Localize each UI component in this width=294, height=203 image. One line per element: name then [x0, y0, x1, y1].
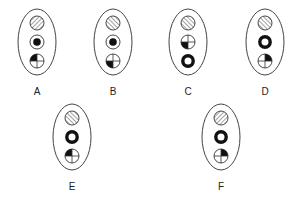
- quadrant-circle-icon: [106, 54, 120, 68]
- figure-label: A: [34, 86, 41, 97]
- target-circle-icon: [106, 35, 120, 49]
- quadrant-circle-icon: [181, 35, 195, 49]
- quadrant-fill: [181, 42, 188, 49]
- quadrant-fill: [106, 61, 113, 68]
- target-center-dot: [109, 38, 117, 46]
- figure-option-e: E: [53, 104, 91, 192]
- thick-ring-icon: [216, 132, 226, 142]
- quadrant-fill: [265, 54, 272, 61]
- quadrant-fill: [65, 149, 72, 156]
- quadrant-circle-icon: [258, 54, 272, 68]
- hatched-circle-icon: [65, 111, 79, 125]
- hatched-circle-icon: [258, 16, 272, 30]
- figure-diagram: ABCDEF: [0, 0, 294, 203]
- figure-label: F: [218, 181, 224, 192]
- figure-option-f: F: [202, 104, 240, 192]
- quadrant-fill: [30, 54, 37, 61]
- thick-ring-icon: [260, 37, 270, 47]
- figure-label: C: [184, 86, 191, 97]
- target-circle-icon: [30, 35, 44, 49]
- figure-option-a: A: [18, 9, 56, 97]
- thick-ring-icon: [67, 132, 77, 142]
- figure-label: D: [261, 86, 268, 97]
- quadrant-circle-icon: [65, 149, 79, 163]
- hatched-circle-icon: [30, 16, 44, 30]
- target-center-dot: [33, 38, 41, 46]
- hatched-circle-icon: [214, 111, 228, 125]
- quadrant-circle-icon: [30, 54, 44, 68]
- quadrant-fill: [221, 149, 228, 156]
- figure-label: E: [69, 181, 76, 192]
- figure-option-c: C: [169, 9, 207, 97]
- figure-option-d: D: [246, 9, 284, 97]
- quadrant-circle-icon: [214, 149, 228, 163]
- hatched-circle-icon: [181, 16, 195, 30]
- hatched-circle-icon: [106, 16, 120, 30]
- figure-label: B: [110, 86, 117, 97]
- figure-option-b: B: [94, 9, 132, 97]
- thick-ring-icon: [183, 56, 193, 66]
